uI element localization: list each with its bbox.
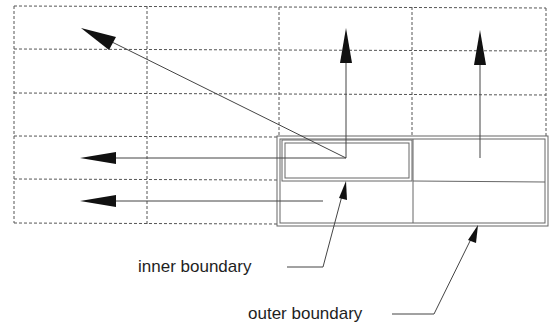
vertical-arrow-left-icon [340,28,352,63]
arrow-heads [80,28,486,207]
diagonal-arrow-icon [81,28,116,50]
outer-boundary-label: outer boundary [248,305,362,322]
inner-boundary-leader-arrow-icon [339,181,347,200]
horizontal-arrow-upper-icon [80,152,116,164]
inner-boundary-label: inner boundary [138,258,251,275]
vertical-arrow-right-icon [474,30,486,65]
outer-boundary-leader [392,235,473,314]
arrow-shafts [112,42,480,201]
inner-boundary-leader [287,192,343,267]
boundary-diagram [0,0,552,331]
outer-boundary-leader-arrow-icon [468,225,478,243]
cell-dividers [413,139,545,223]
inner-boundary [282,140,412,181]
horizontal-arrow-lower-icon [80,195,116,207]
